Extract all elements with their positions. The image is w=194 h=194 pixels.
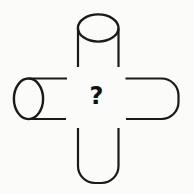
- question-mark-label: ?: [90, 82, 104, 110]
- bottom-tube-outline: [78, 128, 119, 183]
- bottom-tube-arm: [78, 128, 119, 183]
- right-tube-arm: [126, 79, 179, 120]
- pipe-cross-drawing: ?: [0, 0, 194, 194]
- top-cylinder-open-end: [78, 14, 119, 41]
- pipe-cross-figure: ?: [0, 0, 194, 194]
- top-cylinder-arm: [78, 14, 119, 67]
- left-cylinder-arm: [14, 79, 67, 120]
- right-tube-outline: [126, 79, 179, 120]
- left-cylinder-open-end: [14, 79, 43, 120]
